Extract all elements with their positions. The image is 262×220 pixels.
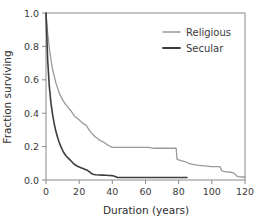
chart-container: 020406080100120 0.00.20.40.60.81.0 Relig… [0, 0, 262, 220]
legend-label-secular: Secular [186, 43, 224, 54]
y-tick-label: 0.4 [24, 108, 39, 119]
x-axis-title: Duration (years) [103, 204, 189, 216]
x-tick-label: 80 [173, 186, 185, 197]
y-axis-title: Fraction surviving [1, 50, 13, 143]
y-tick-label: 1.0 [24, 8, 39, 19]
y-tick-label: 0.2 [24, 141, 39, 152]
x-tick-label: 100 [203, 186, 221, 197]
x-tick-label: 60 [139, 186, 151, 197]
x-tick-label: 40 [106, 186, 118, 197]
y-tick-label: 0.0 [24, 175, 39, 186]
x-tick-label: 0 [43, 186, 49, 197]
y-tick-label: 0.8 [24, 41, 39, 52]
x-tick-label: 20 [73, 186, 85, 197]
survival-curve-chart: 020406080100120 0.00.20.40.60.81.0 Relig… [0, 0, 262, 220]
y-tick-label: 0.6 [24, 74, 39, 85]
legend-label-religious: Religious [186, 27, 231, 38]
x-tick-label: 120 [236, 186, 254, 197]
